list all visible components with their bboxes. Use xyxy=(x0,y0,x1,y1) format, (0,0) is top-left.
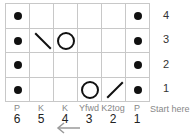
purl-dot-icon xyxy=(134,86,142,94)
cell-r3-c5-ssk xyxy=(30,29,54,54)
cell-r1-c3-yfwd xyxy=(78,78,102,103)
purl-dot-icon xyxy=(14,37,22,45)
purl-dot-icon xyxy=(134,12,142,20)
purl-dot-icon xyxy=(14,61,22,69)
start-here-label: Start here xyxy=(150,104,190,114)
purl-dot-icon xyxy=(14,12,22,20)
cell-r3-c3-knit xyxy=(78,29,102,54)
cell-r4-c1-purl xyxy=(126,4,150,29)
cell-r4-c6-purl xyxy=(6,4,30,29)
cell-r4-c2-knit xyxy=(102,4,126,29)
arrow-left-icon xyxy=(55,121,81,135)
cell-r2-c2-knit xyxy=(102,53,126,78)
yarn-forward-circle-icon xyxy=(57,32,75,50)
purl-dot-icon xyxy=(134,37,142,45)
column-number: 5 xyxy=(29,112,53,126)
cell-r4-c3-knit xyxy=(78,4,102,29)
cell-r1-c1-purl xyxy=(126,78,150,103)
cell-r3-c2-knit xyxy=(102,29,126,54)
purl-dot-icon xyxy=(14,86,22,94)
row-number: 1 xyxy=(161,82,171,94)
cell-r3-c1-purl xyxy=(126,29,150,54)
k2tog-slash-icon xyxy=(107,81,124,98)
row-number: 3 xyxy=(161,33,171,45)
row-number: 4 xyxy=(161,9,171,21)
cell-r1-c5-knit xyxy=(30,78,54,103)
cell-r4-c4-knit xyxy=(54,4,78,29)
ssk-backslash-icon xyxy=(35,32,52,49)
cell-r2-c6-purl xyxy=(6,53,30,78)
cell-r2-c1-purl xyxy=(126,53,150,78)
cell-r1-c2-k2tog xyxy=(102,78,126,103)
column-number: 2 xyxy=(101,112,125,126)
yarn-forward-circle-icon xyxy=(81,81,99,99)
knitting-chart-grid xyxy=(5,3,150,102)
cell-r3-c4-yfwd xyxy=(54,29,78,54)
row-number: 2 xyxy=(161,58,171,70)
cell-r3-c6-purl xyxy=(6,29,30,54)
purl-dot-icon xyxy=(134,61,142,69)
cell-r4-c5-knit xyxy=(30,4,54,29)
column-number: 1 xyxy=(125,112,149,126)
cell-r2-c3-knit xyxy=(78,53,102,78)
column-number: 6 xyxy=(5,112,29,126)
cell-r1-c6-purl xyxy=(6,78,30,103)
cell-r2-c4-knit xyxy=(54,53,78,78)
cell-r2-c5-knit xyxy=(30,53,54,78)
cell-r1-c4-knit xyxy=(54,78,78,103)
